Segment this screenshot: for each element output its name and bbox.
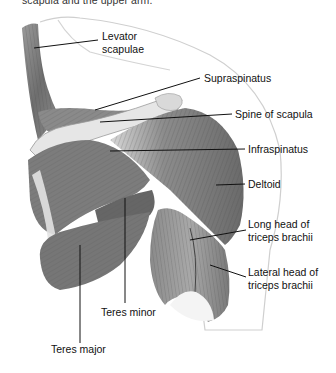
label-line: triceps brachii [248,279,318,292]
label-teres-major: Teres major [51,343,106,356]
label-spine-of-scapula: Spine of scapula [235,108,313,121]
label-line: Levator [102,30,144,43]
label-lateral-head-triceps: Lateral head of triceps brachii [248,266,318,291]
label-teres-minor: Teres minor [101,306,156,319]
label-long-head-triceps: Long head of triceps brachii [248,218,313,243]
label-levator-scapulae: Levator scapulae [102,30,144,55]
label-supraspinatus: Supraspinatus [204,72,271,85]
label-deltoid: Deltoid [248,178,281,191]
label-line: Long head of [248,218,313,231]
label-line: scapulae [102,43,144,56]
shoulder-muscle-illustration [0,0,336,373]
label-infraspinatus: Infraspinatus [248,143,308,156]
label-line: Lateral head of [248,266,318,279]
label-line: triceps brachii [248,231,313,244]
